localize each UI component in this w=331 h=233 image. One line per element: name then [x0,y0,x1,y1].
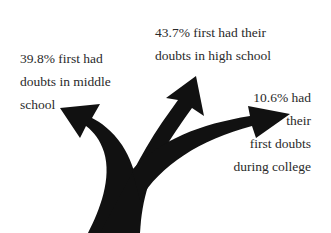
label-line: doubts in middle [20,70,111,93]
label-college: 10.6% had their first doubts during coll… [233,86,311,178]
label-line: first doubts [233,132,311,155]
label-line: doubts in high school [155,44,271,67]
label-line: during college [233,155,311,178]
label-line: their [233,109,311,132]
label-high-school: 43.7% first had their doubts in high sch… [155,21,271,67]
label-middle-school: 39.8% first had doubts in middle school [20,47,111,116]
label-line: 10.6% had [233,86,311,109]
label-line: 43.7% first had their [155,21,271,44]
label-line: 39.8% first had [20,47,111,70]
label-line: school [20,93,111,116]
